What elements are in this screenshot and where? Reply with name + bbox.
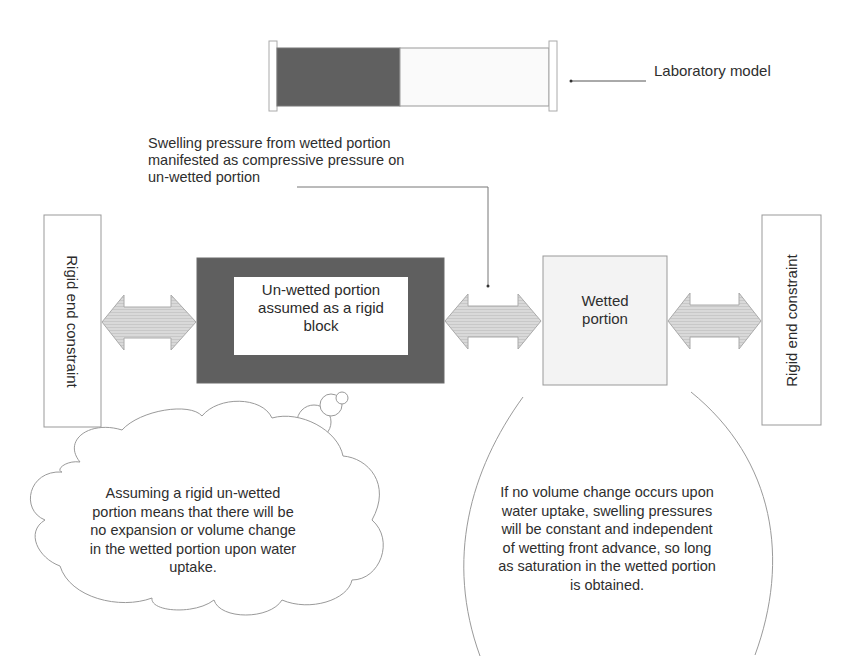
laboratory-model-label: Laboratory model [654,62,771,79]
unwetted-label: Un-wetted portion assumed as a rigid blo… [258,281,384,335]
left-double-arrow [102,295,196,350]
thought-cloud-text: Assuming a rigid un-wetted portion means… [58,484,328,577]
lab-model-leader [570,80,647,83]
right-constraint-label: Rigid end constraint [783,254,800,387]
drop-callout-text: If no volume change occurs upon water up… [462,483,752,594]
left-constraint-label: Rigid end constraint [64,255,81,388]
middle-double-arrow [445,294,541,349]
wetted-label: Wetted portion [543,292,667,328]
left-constraint: Rigid end constraint [44,215,101,427]
swelling-pressure-annotation: Swelling pressure from wetted portion ma… [148,135,468,186]
right-constraint: Rigid end constraint [762,215,821,425]
unwetted-inner-panel: Un-wetted portion assumed as a rigid blo… [234,277,408,355]
laboratory-model [269,41,557,111]
right-double-arrow [668,293,761,349]
